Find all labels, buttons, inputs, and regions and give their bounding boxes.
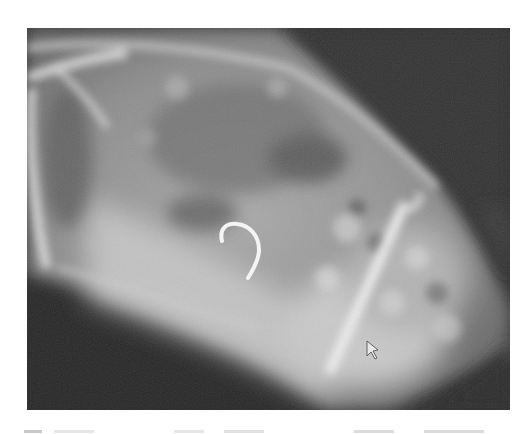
caption-glyph-fragment <box>174 430 204 433</box>
xray-image <box>27 28 510 410</box>
xray-figure <box>27 28 510 410</box>
caption-glyph-fragment <box>424 430 484 433</box>
caption-glyph-fragment <box>224 430 264 433</box>
caption-glyph-fragment <box>54 430 94 433</box>
caption-glyph-fragment <box>354 430 394 433</box>
figure-caption-cutoff <box>24 428 494 434</box>
caption-glyph-fragment <box>24 430 42 433</box>
